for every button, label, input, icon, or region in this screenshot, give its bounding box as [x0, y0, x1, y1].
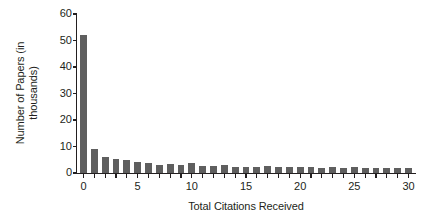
x-axis-tick: [191, 174, 192, 178]
y-axis-tick-label-text: 0: [52, 167, 72, 178]
x-axis-tick: [343, 174, 344, 178]
bar: [318, 168, 325, 173]
bar: [123, 160, 130, 173]
x-axis-tick: [386, 174, 387, 178]
bar: [210, 166, 217, 173]
x-axis-tick: [115, 174, 116, 178]
x-axis-tick: [365, 174, 366, 178]
x-axis-tick: [180, 174, 181, 178]
x-axis-tick: [94, 174, 95, 178]
bar: [188, 163, 195, 173]
bar: [373, 168, 380, 173]
bar: [297, 167, 304, 173]
bar: [221, 165, 228, 173]
x-axis-tick: [332, 174, 333, 178]
bar: [243, 167, 250, 173]
x-axis-tick-label: 10: [177, 180, 207, 192]
bar: [102, 157, 109, 173]
x-axis-tick: [310, 174, 311, 178]
x-axis-tick: [267, 174, 268, 178]
x-axis-tick: [148, 174, 149, 178]
x-axis-tick: [170, 174, 171, 178]
y-axis-tick-label: 40: [50, 61, 72, 72]
x-axis-tick: [105, 174, 106, 178]
bar: [405, 168, 412, 173]
y-axis-tick-label: 60: [50, 8, 72, 19]
y-axis-title: Number of Papers (in thousands): [14, 13, 44, 173]
x-axis-tick: [202, 174, 203, 178]
y-axis-tick-label-text: 20: [52, 114, 72, 125]
y-axis-tick-label-text: 30: [52, 88, 72, 99]
bar: [145, 163, 152, 173]
bar: [113, 159, 120, 173]
bar: [80, 35, 87, 173]
bar: [383, 168, 390, 173]
x-axis-tick-label: 20: [285, 180, 315, 192]
x-axis-tick: [354, 174, 355, 178]
bar: [351, 167, 358, 173]
x-axis-tick: [408, 174, 409, 178]
y-axis-tick-label: 50: [50, 35, 72, 46]
bar: [156, 165, 163, 173]
x-axis-tick: [300, 174, 301, 178]
x-axis-tick-label: 30: [394, 180, 424, 192]
x-axis-tick: [235, 174, 236, 178]
x-axis-tick: [213, 174, 214, 178]
y-axis-tick-label: 30: [50, 88, 72, 99]
bar: [232, 167, 239, 173]
y-axis-tick-label: 20: [50, 114, 72, 125]
bar: [91, 149, 98, 173]
bar: [329, 167, 336, 173]
y-axis-tick-label: 10: [50, 141, 72, 152]
y-axis-tick-label-text: 60: [52, 8, 72, 19]
bar: [134, 162, 141, 173]
x-axis-tick: [245, 174, 246, 178]
x-axis-tick: [83, 174, 84, 178]
bars-layer: [77, 14, 415, 173]
x-axis-tick-label: 25: [339, 180, 369, 192]
x-axis-tick: [126, 174, 127, 178]
bar: [264, 166, 271, 173]
bar: [178, 165, 185, 173]
bar: [253, 167, 260, 173]
x-axis-tick-label: 15: [231, 180, 261, 192]
bar: [394, 168, 401, 173]
x-axis-tick: [159, 174, 160, 178]
x-axis-tick-label: 0: [69, 180, 99, 192]
x-axis-tick: [278, 174, 279, 178]
bar: [275, 167, 282, 173]
y-axis-tick-label-text: 50: [52, 35, 72, 46]
citation-histogram-chart: Number of Papers (in thousands) 01020304…: [0, 0, 429, 224]
bar: [362, 168, 369, 173]
x-axis-tick: [375, 174, 376, 178]
y-axis-tick-label-text: 10: [52, 141, 72, 152]
bar: [340, 168, 347, 173]
x-axis-tick: [256, 174, 257, 178]
bar: [167, 164, 174, 173]
plot-area: [77, 14, 415, 173]
x-axis-tick-label: 5: [123, 180, 153, 192]
x-axis-tick: [137, 174, 138, 178]
bar: [308, 167, 315, 173]
bar: [199, 166, 206, 173]
x-axis-tick: [224, 174, 225, 178]
bar: [286, 167, 293, 173]
y-axis-tick-label: 0: [50, 167, 72, 178]
x-axis-tick: [289, 174, 290, 178]
y-axis-tick-label-text: 40: [52, 61, 72, 72]
x-axis-tick: [397, 174, 398, 178]
x-axis-title: Total Citations Received: [76, 200, 416, 212]
x-axis-ticks: 051015202530: [77, 174, 415, 196]
x-axis-tick: [321, 174, 322, 178]
